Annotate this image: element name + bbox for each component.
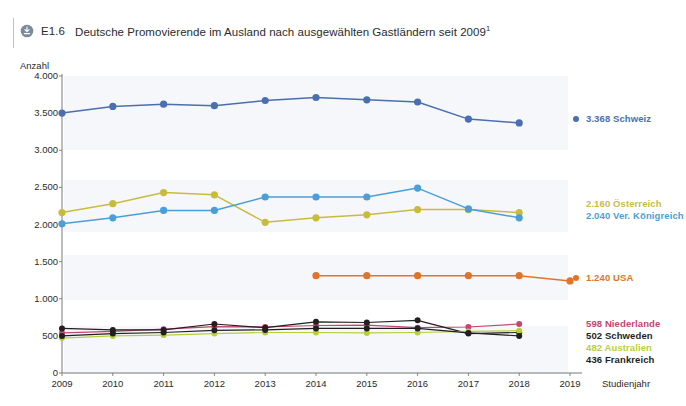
data-point <box>516 119 523 126</box>
data-point <box>364 320 370 326</box>
data-point <box>312 214 319 221</box>
data-point <box>363 193 370 200</box>
y-axis-tick-label: 2.500 <box>16 181 58 192</box>
data-point <box>262 97 269 104</box>
legend-item-schweden[interactable]: 502 Schweden <box>586 330 660 341</box>
data-point <box>465 272 472 279</box>
data-point <box>262 327 268 333</box>
data-point <box>363 96 370 103</box>
x-axis-tick-label: 2014 <box>293 378 339 389</box>
legend-item-label: 482 Australien <box>586 342 652 353</box>
legend-item-label: 502 Schweden <box>586 330 653 341</box>
y-axis-tick-label: 500 <box>16 330 58 341</box>
y-axis-tick-label: 1.500 <box>16 256 58 267</box>
legend-item-label: 2.160 Österreich <box>586 198 662 209</box>
data-point <box>312 272 319 279</box>
data-point <box>58 110 65 117</box>
data-point <box>211 327 217 333</box>
legend-item-label: 1.240 USA <box>586 272 633 283</box>
x-axis-tick-label: 2017 <box>445 378 491 389</box>
data-point <box>516 214 523 221</box>
x-axis-tick-label: 2012 <box>191 378 237 389</box>
line-chart-plot <box>0 0 686 406</box>
legend-item-frankreich[interactable]: 436 Frankreich <box>586 354 660 365</box>
y-axis-tick-label: 0 <box>16 367 58 378</box>
legend-item-usa[interactable]: 1.240 USA <box>573 272 633 283</box>
data-point <box>58 220 65 227</box>
data-point <box>516 333 522 339</box>
data-point <box>262 219 269 226</box>
data-point <box>211 207 218 214</box>
data-point <box>262 193 269 200</box>
data-point <box>414 206 421 213</box>
legend-item-österreich[interactable]: 2.160 Österreich <box>586 198 684 209</box>
y-axis-tick-label: 2.000 <box>16 219 58 230</box>
x-axis-tick-label: 2018 <box>496 378 542 389</box>
y-axis-tick-label: 4.000 <box>16 70 58 81</box>
x-axis-tick-label: 2010 <box>90 378 136 389</box>
data-point <box>415 325 421 331</box>
data-point <box>161 330 167 336</box>
data-point <box>363 211 370 218</box>
data-point <box>58 209 65 216</box>
legend-item-label: 2.040 Ver. Königreich <box>586 210 684 221</box>
data-point <box>313 325 319 331</box>
data-point <box>414 272 421 279</box>
legend-group-mid: 2.160 Österreich2.040 Ver. Königreich <box>586 198 684 221</box>
data-point <box>414 185 421 192</box>
data-point <box>363 272 370 279</box>
data-point <box>110 331 116 337</box>
legend-color-dot <box>573 116 579 122</box>
data-point <box>414 98 421 105</box>
data-point <box>516 272 523 279</box>
data-point <box>160 101 167 108</box>
y-axis-tick-label: 3.000 <box>16 144 58 155</box>
data-point <box>59 333 65 339</box>
data-point <box>465 205 472 212</box>
legend-item-ver-königreich[interactable]: 2.040 Ver. Königreich <box>586 210 684 221</box>
data-point <box>516 328 522 334</box>
data-point <box>465 116 472 123</box>
x-axis-tick-label: 2015 <box>344 378 390 389</box>
data-point <box>312 193 319 200</box>
x-axis-tick-label: 2011 <box>141 378 187 389</box>
legend-group-bottom: 598 Niederlande502 Schweden482 Australie… <box>586 318 660 365</box>
data-point <box>211 191 218 198</box>
legend-item-label: 598 Niederlande <box>586 318 660 329</box>
legend-item-niederlande[interactable]: 598 Niederlande <box>586 318 660 329</box>
data-point <box>109 103 116 110</box>
figure-container: E1.6 Deutsche Promovierende im Ausland n… <box>0 0 686 406</box>
x-axis-tick-label: 2019 <box>547 378 593 389</box>
x-axis-tick-label: 2013 <box>242 378 288 389</box>
data-point <box>465 330 471 336</box>
data-point <box>211 321 217 327</box>
legend-item-label: 3.368 Schweiz <box>586 113 651 124</box>
legend-item-schweiz[interactable]: 3.368 Schweiz <box>573 113 651 124</box>
x-axis-tick-label: 2016 <box>395 378 441 389</box>
y-axis-tick-label: 3.500 <box>16 107 58 118</box>
data-point <box>364 325 370 331</box>
data-point <box>109 200 116 207</box>
data-point <box>312 94 319 101</box>
legend-item-australien[interactable]: 482 Australien <box>586 342 660 353</box>
data-point <box>109 214 116 221</box>
data-point <box>160 207 167 214</box>
legend-item-label: 436 Frankreich <box>586 354 654 365</box>
x-axis-tick-label: 2009 <box>39 378 85 389</box>
data-point <box>516 321 522 327</box>
background-band <box>64 76 568 150</box>
data-point <box>211 102 218 109</box>
y-axis-tick-label: 1.000 <box>16 293 58 304</box>
background-band <box>64 180 568 232</box>
data-point <box>415 317 421 323</box>
data-point <box>313 319 319 325</box>
data-point <box>160 189 167 196</box>
legend-color-dot <box>573 275 579 281</box>
data-point <box>59 325 65 331</box>
